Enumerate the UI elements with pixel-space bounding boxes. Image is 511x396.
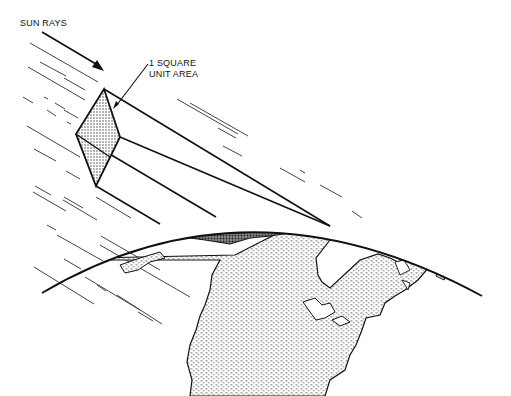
- area-leader-line: [113, 64, 148, 109]
- globe: [0, 212, 448, 396]
- north-america-landmass: [0, 226, 430, 396]
- unit-area-square: [76, 89, 120, 186]
- sun-rays-arrow: [42, 32, 104, 71]
- sun-rays-label: SUN RAYS: [20, 18, 67, 29]
- sun-rays-diagram: [0, 0, 511, 396]
- ray-beam: [76, 89, 330, 226]
- area-label-line2: UNIT AREA: [149, 69, 198, 80]
- area-label-line1: 1 SQUARE: [149, 58, 196, 69]
